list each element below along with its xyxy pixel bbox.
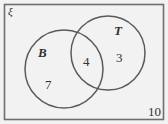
t-only-count: 3 bbox=[116, 50, 123, 65]
venn-diagram: ξ B T 7 4 3 10 bbox=[0, 0, 168, 124]
universal-set-symbol: ξ bbox=[8, 5, 13, 18]
set-b-label: B bbox=[37, 45, 47, 60]
b-only-count: 7 bbox=[45, 77, 52, 92]
set-t-label: T bbox=[114, 23, 123, 38]
intersection-count: 4 bbox=[83, 54, 90, 69]
outside-count: 10 bbox=[148, 104, 161, 119]
